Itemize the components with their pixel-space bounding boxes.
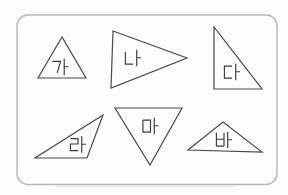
- label-ma: [143, 118, 159, 135]
- figure-canvas: [0, 0, 288, 195]
- label-ra: [70, 136, 86, 153]
- label-da: [224, 64, 240, 81]
- triangle-ba: [188, 122, 262, 152]
- scan-shadow-artifact: [55, 186, 235, 188]
- triangle-da: [214, 27, 262, 89]
- triangle-na: [111, 31, 187, 88]
- triangles-figure: [0, 0, 288, 195]
- triangle-ga: [38, 37, 86, 78]
- label-na: [125, 50, 141, 67]
- shapes-group: [35, 27, 262, 165]
- triangle-ra: [35, 115, 103, 158]
- label-ba: [216, 132, 232, 149]
- triangle-ma: [115, 108, 182, 165]
- label-ga: [53, 59, 69, 76]
